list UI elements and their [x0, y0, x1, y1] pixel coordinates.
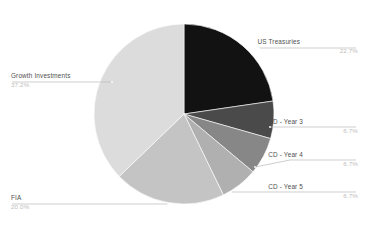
slice-label-percent-4: 6.7%: [343, 192, 358, 199]
leader-anchor-dot-1: [258, 47, 260, 49]
slice-label-percent-6: 37.2%: [11, 81, 30, 88]
pie-slices-group: [94, 24, 274, 204]
slice-label-name-4: CD - Year 5: [268, 183, 303, 190]
slice-label-name-1: US Treasuries: [258, 38, 300, 45]
pie-chart-container: US Treasuries22.7%CD - Year 36.7%CD - Ye…: [0, 0, 368, 227]
leader-anchor-dot-3: [254, 166, 256, 168]
slice-label-percent-2: 6.7%: [343, 127, 358, 134]
slice-label-name-2: CD - Year 3: [268, 118, 303, 125]
slice-label-name-6: Growth Investments: [11, 72, 71, 79]
leader-anchor-dot-6: [111, 81, 113, 83]
slice-label-name-3: CD - Year 4: [268, 151, 303, 158]
leader-anchor-dot-4: [230, 191, 232, 193]
pie-chart-svg: US Treasuries22.7%CD - Year 36.7%CD - Ye…: [0, 0, 368, 227]
leader-anchor-dot-2: [269, 126, 271, 128]
slice-label-percent-3: 6.7%: [343, 160, 358, 167]
slice-label-percent-5: 20.0%: [11, 203, 30, 210]
slice-label-percent-1: 22.7%: [340, 47, 359, 54]
slice-label-name-5: FIA: [11, 194, 22, 201]
leader-anchor-dot-5: [167, 203, 169, 205]
